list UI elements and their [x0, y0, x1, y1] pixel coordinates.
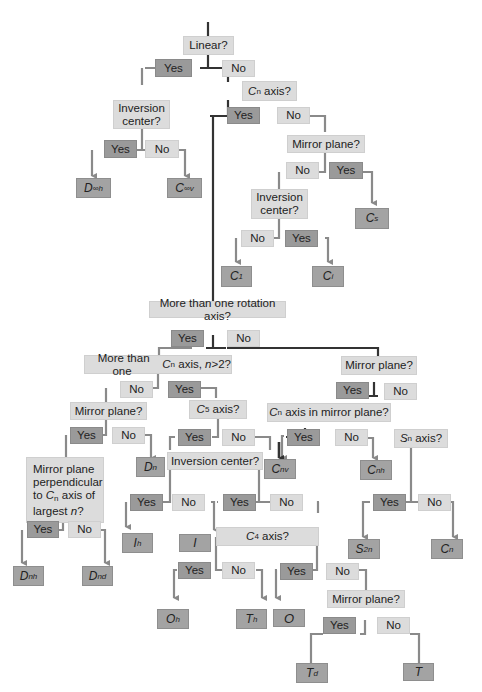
result-dnh: Dnh — [13, 566, 44, 586]
answer-yes: Yes — [104, 140, 137, 158]
result-t: T — [403, 663, 434, 681]
question-linear: Linear? — [183, 36, 234, 55]
question-c5-axis: C5 axis? — [189, 400, 247, 419]
answer-no: No — [222, 429, 255, 446]
result-td: Td — [296, 663, 328, 683]
question-text: Inversion center? — [252, 191, 307, 217]
answer-no: No — [270, 494, 303, 511]
answer-yes: Yes — [336, 382, 369, 399]
answer-yes: Yes — [285, 230, 318, 247]
result-cn: Cn — [431, 539, 463, 559]
answer-no: No — [377, 617, 410, 634]
result-dn: Dn — [136, 457, 165, 477]
answer-yes: Yes — [168, 381, 201, 398]
answer-no: No — [68, 521, 101, 538]
answer-yes: Yes — [227, 107, 260, 124]
answer-yes: Yes — [155, 59, 192, 77]
answer-yes: Yes — [223, 494, 256, 511]
answer-no: No — [145, 140, 179, 158]
answer-no: No — [286, 162, 319, 179]
answer-yes: Yes — [130, 494, 163, 511]
result-i: I — [179, 534, 211, 552]
answer-yes: Yes — [70, 427, 103, 444]
answer-yes: Yes — [287, 429, 320, 446]
result-ci: Ci — [312, 266, 344, 287]
question-mirror-plane: Mirror plane? — [327, 590, 405, 608]
answer-no: No — [112, 427, 145, 444]
result-o: O — [273, 609, 305, 627]
answer-yes: Yes — [329, 162, 363, 179]
question-inversion-center: Inversion center? — [113, 100, 170, 129]
question-more-than-one-rotation-axis: More than one rotation axis? — [149, 301, 286, 318]
result-dnd: Dnd — [82, 566, 113, 586]
result-th: Th — [236, 609, 267, 629]
answer-yes: Yes — [171, 330, 204, 347]
result-ih: Ih — [122, 533, 153, 553]
answer-no: No — [384, 383, 417, 400]
answer-no: No — [172, 494, 205, 511]
question-cn-axis-in-mirror-plane: Cn axis in mirror plane? — [267, 403, 391, 422]
answer-no: No — [120, 381, 153, 398]
answer-no: No — [326, 563, 359, 580]
question-more-than-one-cn-axis: More than one Cn axis, n>2? — [84, 355, 232, 374]
answer-no: No — [222, 562, 255, 579]
answer-yes: Yes — [373, 494, 406, 511]
answer-no: No — [222, 60, 255, 77]
question-inversion-center: Inversion center? — [167, 452, 263, 470]
answer-yes: Yes — [178, 562, 211, 579]
question-mirror-plane-perpendicular: Mirror plane perpendicular to Cn axis of… — [26, 457, 104, 523]
result-c1: C1 — [221, 266, 252, 287]
question-inversion-center: Inversion center? — [251, 189, 308, 219]
question-mirror-plane: Mirror plane? — [70, 402, 147, 420]
answer-no: No — [277, 107, 310, 124]
answer-no: No — [418, 494, 451, 511]
question-text: Inversion center? — [114, 102, 169, 128]
question-cn-axis: Cn axis? — [242, 81, 297, 101]
answer-no: No — [227, 330, 260, 347]
result-cs: Cs — [355, 208, 389, 229]
result-d-inf-h: D∞h — [76, 178, 111, 198]
answer-no: No — [335, 429, 368, 446]
result-oh: Oh — [157, 609, 189, 629]
question-mirror-plane: Mirror plane? — [287, 135, 365, 153]
answer-yes: Yes — [178, 429, 211, 446]
answer-yes: Yes — [323, 617, 356, 634]
question-sn-axis: Sn axis? — [394, 429, 448, 448]
answer-yes: Yes — [27, 521, 59, 538]
question-c4-axis: C4 axis? — [216, 527, 319, 546]
question-mirror-plane: Mirror plane? — [341, 356, 417, 375]
result-c-inf-v: C∞v — [167, 178, 202, 198]
answer-no: No — [241, 230, 274, 247]
result-s2n: S2n — [348, 539, 380, 559]
result-cnh: Cnh — [360, 460, 392, 480]
answer-yes: Yes — [280, 563, 313, 580]
result-cnv: Cnv — [264, 459, 296, 479]
